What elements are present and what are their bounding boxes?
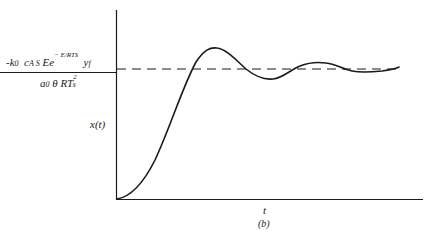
setpoint-denominator: a0 θ RT2s <box>40 77 76 89</box>
y-axis-label: x(t) <box>90 119 105 130</box>
figure-caption: (b) <box>258 219 270 229</box>
response-diagram <box>0 0 431 236</box>
x-axis-label: t <box>263 205 266 216</box>
setpoint-numerator: -k0 cA S Ee− E/RTs yf <box>6 55 91 68</box>
response-curve <box>117 48 399 199</box>
fraction-bar <box>0 72 116 73</box>
